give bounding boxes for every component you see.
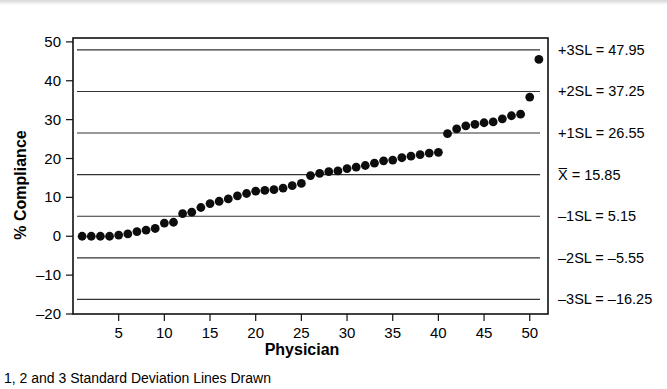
data-point: [507, 111, 516, 120]
data-point: [416, 150, 425, 159]
x-tick-label-5: 5: [115, 324, 123, 341]
data-point: [114, 231, 123, 240]
data-point: [480, 118, 489, 127]
data-point: [105, 232, 114, 241]
sigma-label-plus3sl: +3SL = 47.95: [558, 42, 645, 58]
data-point: [242, 189, 251, 198]
data-point: [224, 195, 233, 204]
sigma-label-minus1sl: –1SL = 5.15: [558, 208, 636, 224]
data-point: [334, 167, 343, 176]
data-point: [123, 230, 132, 239]
data-point: [196, 203, 205, 212]
x-tick-label-30: 30: [339, 324, 356, 341]
y-tick-label-40: 40: [44, 72, 61, 89]
data-point: [279, 184, 288, 193]
y-axis-title: % Compliance: [12, 130, 29, 239]
y-tick-label-10: 10: [44, 188, 61, 205]
y-tick-label-0: 0: [53, 227, 61, 244]
chart-caption: 1, 2 and 3 Standard Deviation Lines Draw…: [4, 370, 271, 386]
data-point: [142, 226, 151, 235]
x-axis-title: Physician: [265, 341, 340, 358]
data-point: [379, 156, 388, 165]
data-point: [297, 179, 306, 188]
chart-canvas: –20–1001020304050 5101520253035404550 +3…: [0, 0, 667, 389]
data-point: [498, 114, 507, 123]
x-tick-label-45: 45: [476, 324, 493, 341]
x-axis-ticks: 5101520253035404550: [115, 314, 539, 341]
sigma-label-plus1sl: +1SL = 26.55: [558, 125, 645, 141]
x-tick-label-15: 15: [202, 324, 219, 341]
data-point: [471, 120, 480, 129]
data-point: [516, 110, 525, 119]
sigma-label-minus3sl: –3SL = –16.25: [558, 291, 652, 307]
data-point-series: [78, 55, 544, 241]
data-point: [78, 232, 87, 241]
data-point: [206, 199, 215, 208]
sigma-label-centerline: X̅ = 15.85: [558, 167, 621, 183]
x-tick-label-25: 25: [293, 324, 310, 341]
data-point: [397, 153, 406, 162]
data-point: [425, 149, 434, 158]
data-point: [407, 152, 416, 161]
x-tick-label-35: 35: [384, 324, 401, 341]
data-point: [178, 209, 187, 218]
scan-artifact-band: [0, 0, 667, 5]
data-point: [160, 219, 169, 228]
data-point: [352, 163, 361, 172]
y-tick-label-50: 50: [44, 33, 61, 50]
y-axis-ticks: –20–1001020304050: [36, 33, 73, 322]
data-point: [288, 181, 297, 190]
data-point: [452, 125, 461, 134]
data-point: [187, 208, 196, 217]
data-point: [525, 93, 534, 102]
data-point: [233, 191, 242, 200]
data-point: [443, 129, 452, 138]
y-tick-label--20: –20: [36, 305, 61, 322]
data-point: [96, 232, 105, 241]
data-point: [434, 148, 443, 157]
data-point: [361, 161, 370, 170]
data-point: [251, 187, 260, 196]
data-point: [370, 159, 379, 168]
data-point: [151, 224, 160, 233]
x-tick-label-50: 50: [521, 324, 538, 341]
sigma-label-group: +3SL = 47.95+2SL = 37.25+1SL = 26.55X̅ =…: [558, 42, 652, 308]
sigma-label-minus2sl: –2SL = –5.55: [558, 250, 644, 266]
data-point: [306, 171, 315, 180]
y-tick-label-20: 20: [44, 150, 61, 167]
x-tick-label-40: 40: [430, 324, 447, 341]
data-point: [534, 55, 543, 64]
data-point: [133, 227, 142, 236]
data-point: [87, 232, 96, 241]
x-tick-label-20: 20: [247, 324, 264, 341]
data-point: [169, 218, 178, 227]
data-point: [388, 156, 397, 165]
data-point: [461, 121, 470, 130]
data-point: [260, 186, 269, 195]
sigma-label-plus2sl: +2SL = 37.25: [558, 83, 645, 99]
data-point: [489, 118, 498, 127]
data-point: [343, 164, 352, 173]
control-chart: –20–1001020304050 5101520253035404550 +3…: [0, 0, 667, 389]
data-point: [215, 197, 224, 206]
y-tick-label--10: –10: [36, 266, 61, 283]
y-tick-label-30: 30: [44, 111, 61, 128]
data-point: [315, 169, 324, 178]
data-point: [324, 167, 333, 176]
data-point: [270, 185, 279, 194]
x-tick-label-10: 10: [156, 324, 173, 341]
